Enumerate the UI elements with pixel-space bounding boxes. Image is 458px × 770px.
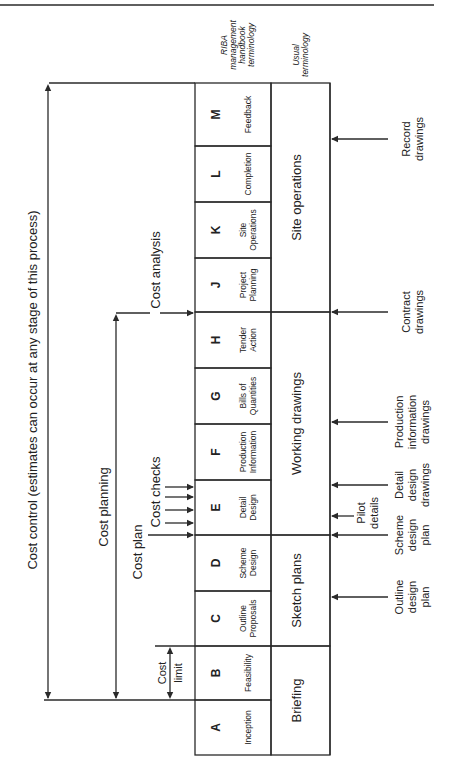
diagram-structure — [44, 83, 330, 755]
stage-letter: K — [209, 225, 223, 234]
usual-phases: BriefingSketch plansWorking drawingsSite… — [271, 83, 330, 755]
usual-phase: Working drawings — [271, 312, 330, 535]
usual-phase-label: Site operations — [289, 154, 304, 241]
cost-control-bottom-head-icon — [45, 692, 51, 699]
drawing-label: Detail — [393, 471, 405, 499]
stage-h: HTenderAction — [195, 312, 271, 368]
drawing-label: information — [406, 395, 418, 449]
drawing-label: drawings — [413, 289, 425, 334]
column-headers: RIBAmanagementhandbookterminologyUsualte… — [219, 20, 310, 77]
drawing-label: details — [368, 497, 380, 529]
stage-name: Feedback — [243, 95, 253, 133]
riba-header: terminology — [246, 22, 256, 67]
stage-name: Operations — [248, 209, 258, 251]
stage-letter: C — [209, 614, 223, 623]
drawing-label: Production — [393, 396, 405, 449]
drawing-label: plan — [419, 525, 431, 546]
stage-box — [195, 146, 271, 202]
stage-name: Action — [248, 328, 258, 352]
stage-d: DSchemeDesign — [195, 535, 271, 591]
stage-box — [195, 700, 271, 755]
drawing-annotations: RecorddrawingsContractdrawingsProduction… — [331, 116, 431, 614]
drawing-head-icon — [331, 419, 338, 425]
stage-name: Site — [238, 222, 248, 237]
drawing-label: Record — [400, 121, 412, 156]
stage-c: COutlineProposals — [195, 591, 271, 646]
stage-box — [195, 258, 271, 312]
stage-b: BFeasibility — [195, 646, 271, 700]
usual-phase-label: Sketch plans — [289, 553, 304, 628]
stage-name: Information — [248, 430, 258, 473]
stage-box — [195, 480, 271, 535]
drawing-annotation: Recorddrawings — [331, 116, 425, 161]
cost-analysis-label: Cost analysis — [148, 231, 163, 309]
stage-box — [195, 202, 271, 258]
drawing-label: plan — [419, 587, 431, 608]
stage-letter: D — [209, 558, 223, 567]
stage-letter: M — [209, 110, 223, 120]
drawing-annotation: Detaildesigndrawings — [331, 462, 431, 507]
stage-k: KSiteOperations — [195, 202, 271, 258]
drawing-label: Pilot — [355, 502, 367, 523]
stage-name: Quantities — [248, 377, 258, 415]
usual-phase: Briefing — [271, 646, 330, 755]
stage-name: Detail — [238, 497, 248, 519]
cost-analysis-head-icon — [187, 310, 194, 316]
stage-name: Outline — [238, 605, 248, 632]
stage-f: FProductionInformation — [195, 424, 271, 480]
stage-letter: L — [209, 170, 223, 177]
stage-name: Proposals — [248, 600, 258, 638]
drawing-label: design — [406, 469, 418, 501]
stage-m: MFeedback — [195, 83, 271, 146]
stage-name: Feasibility — [243, 653, 253, 692]
stage-name: Design — [248, 494, 258, 521]
stage-letter: F — [209, 448, 223, 455]
cost-plan-label: Cost plan — [130, 525, 145, 580]
drawing-label: design — [406, 519, 418, 551]
usual-phase-label: Briefing — [289, 678, 304, 722]
stage-j: JProjectPlanning — [195, 258, 271, 312]
cost-planning-top-head-icon — [113, 314, 119, 321]
stage-name: Completion — [243, 152, 253, 195]
cost-planning-label: Cost planning — [96, 467, 111, 547]
stage-a: AInception — [195, 700, 271, 755]
cost-planning-bottom-head-icon — [113, 692, 119, 699]
drawing-head-icon — [331, 309, 338, 315]
drawing-label: Scheme — [393, 515, 405, 555]
stage-letter: H — [209, 336, 223, 345]
cost-annotations: Cost control (estimates can occur at any… — [25, 84, 196, 699]
stage-box — [195, 424, 271, 480]
drawing-label: Contract — [400, 291, 412, 333]
usual-phase-label: Working drawings — [289, 371, 304, 475]
drawing-label: Outline — [393, 580, 405, 615]
cost-plan-head-icon — [187, 532, 194, 538]
stage-name: Production — [238, 431, 248, 472]
stage-letter: J — [209, 282, 223, 289]
stage-l: LCompletion — [195, 146, 271, 202]
stage-box — [195, 646, 271, 700]
stage-box — [195, 368, 271, 424]
stage-name: Design — [248, 550, 258, 577]
stage-g: GBills ofQuantities — [195, 368, 271, 424]
stage-box — [195, 312, 271, 368]
drawing-label: drawings — [419, 399, 431, 444]
drawing-head-icon — [331, 594, 338, 600]
cost-control-top-head-icon — [45, 84, 51, 91]
cost-check-head-icon — [187, 520, 194, 526]
stage-name: Project — [238, 271, 248, 298]
drawing-annotation: Productioninformationdrawings — [331, 395, 431, 449]
stage-name: Scheme — [238, 547, 248, 578]
stage-name: Inception — [243, 710, 253, 745]
cost-check-head-icon — [187, 484, 194, 490]
drawing-annotation: Schemedesignplan — [331, 515, 431, 555]
stage-box — [195, 591, 271, 646]
usual-phase: Sketch plans — [271, 535, 330, 646]
drawing-annotation: Outlinedesignplan — [331, 580, 431, 615]
stage-letter: G — [209, 391, 223, 400]
drawing-label: design — [406, 581, 418, 613]
usual-phase: Site operations — [271, 83, 330, 312]
cost-limit-label: limit — [172, 663, 184, 683]
drawing-head-icon — [331, 482, 338, 488]
stage-box — [195, 535, 271, 591]
stage-name: Bills of — [238, 383, 248, 409]
